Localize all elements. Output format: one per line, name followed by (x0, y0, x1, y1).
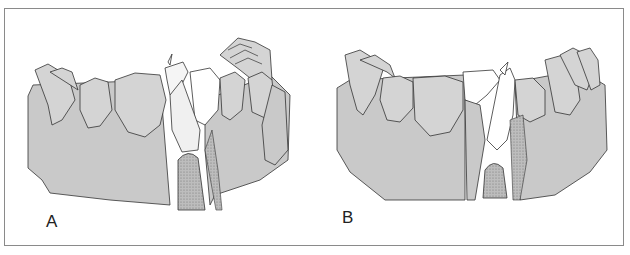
dental-arch-illustration-b (315, 0, 630, 255)
panel-a: A (0, 0, 310, 255)
panel-b: B (315, 0, 625, 255)
panel-label-b: B (342, 208, 353, 228)
panel-label-a: A (46, 212, 57, 232)
